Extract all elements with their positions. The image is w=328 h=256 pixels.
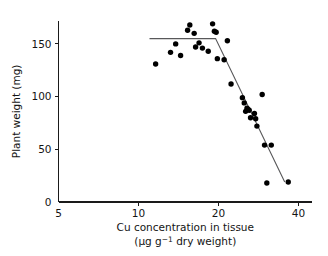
data-point bbox=[173, 41, 178, 46]
data-point bbox=[191, 31, 196, 36]
x-tick-label: 20 bbox=[212, 207, 225, 219]
x-tick-label: 10 bbox=[132, 207, 145, 219]
data-point bbox=[168, 50, 173, 55]
data-point bbox=[210, 21, 215, 26]
data-point bbox=[196, 40, 201, 45]
data-point bbox=[252, 111, 257, 116]
axes-group bbox=[59, 21, 313, 202]
y-axis-title: Plant weight (mg) bbox=[10, 65, 22, 159]
y-tick-label: 0 bbox=[45, 196, 52, 208]
x-axis-units-suffix: dry weight) bbox=[173, 235, 236, 247]
data-point bbox=[247, 108, 252, 113]
data-point bbox=[248, 115, 253, 120]
x-axis-title-units: (µg g−1 dry weight) bbox=[134, 235, 236, 247]
data-point bbox=[262, 142, 267, 147]
x-axis-units-prefix: (µg g bbox=[134, 235, 161, 247]
data-point bbox=[240, 95, 245, 100]
data-point bbox=[213, 30, 218, 35]
x-axis-units-superscript: −1 bbox=[162, 235, 173, 244]
data-point bbox=[193, 44, 198, 49]
figure-panel: 050100150 5102040 Plant weight (mg) Cu c… bbox=[0, 0, 328, 256]
data-point bbox=[221, 57, 226, 62]
data-point bbox=[253, 116, 258, 121]
data-point bbox=[178, 53, 183, 58]
data-point bbox=[187, 22, 192, 27]
y-tick-label: 100 bbox=[31, 90, 51, 102]
x-tick-label: 5 bbox=[55, 207, 62, 219]
y-tick-label: 50 bbox=[38, 143, 51, 155]
data-point bbox=[269, 142, 274, 147]
x-axis-ticks: 5102040 bbox=[55, 202, 305, 219]
x-tick-label: 40 bbox=[292, 207, 305, 219]
data-point bbox=[185, 28, 190, 33]
scatter-chart: 050100150 5102040 Plant weight (mg) Cu c… bbox=[0, 0, 328, 256]
data-point bbox=[206, 49, 211, 54]
data-point bbox=[215, 56, 220, 61]
data-point bbox=[225, 38, 230, 43]
data-point bbox=[200, 45, 205, 50]
x-axis-title: Cu concentration in tissue bbox=[117, 221, 254, 233]
y-axis-ticks: 050100150 bbox=[31, 38, 58, 208]
data-point bbox=[242, 100, 247, 105]
data-point bbox=[153, 61, 158, 66]
data-point bbox=[259, 92, 264, 97]
data-point bbox=[286, 179, 291, 184]
data-point bbox=[228, 81, 233, 86]
y-tick-label: 150 bbox=[31, 38, 51, 50]
data-point bbox=[254, 123, 259, 128]
data-point bbox=[264, 180, 269, 185]
data-points-group bbox=[153, 21, 291, 186]
